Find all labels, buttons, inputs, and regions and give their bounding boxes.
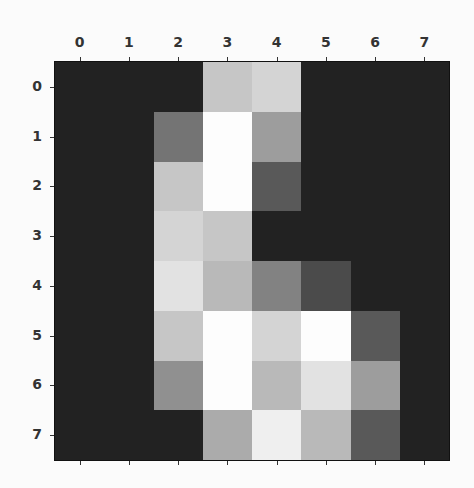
- heatmap-cell: [154, 211, 203, 261]
- heatmap-cell: [55, 311, 104, 361]
- x-tick-mark: [326, 460, 327, 465]
- heatmap-cell: [203, 112, 252, 162]
- heatmap-cell: [301, 361, 350, 411]
- heatmap-cell: [252, 410, 301, 460]
- y-tick-label: 0: [28, 78, 42, 94]
- heatmap-cell: [252, 261, 301, 311]
- heatmap-cell: [400, 162, 449, 212]
- x-tick-mark: [375, 460, 376, 465]
- heatmap-cell: [351, 311, 400, 361]
- y-tick-label: 5: [28, 327, 42, 343]
- heatmap-cell: [301, 162, 350, 212]
- heatmap-cell: [351, 361, 400, 411]
- heatmap-cell: [104, 162, 153, 212]
- heatmap-cell: [203, 62, 252, 112]
- heatmap-cell: [154, 311, 203, 361]
- heatmap-cell: [104, 112, 153, 162]
- heatmap-cell: [351, 112, 400, 162]
- heatmap-cell: [104, 261, 153, 311]
- x-tick-label: 4: [267, 34, 287, 50]
- heatmap-cell: [351, 211, 400, 261]
- heatmap-cell: [104, 211, 153, 261]
- heatmap-cell: [301, 211, 350, 261]
- y-tick-label: 7: [28, 426, 42, 442]
- x-tick-mark: [424, 460, 425, 465]
- x-tick-label: 6: [365, 34, 385, 50]
- heatmap-cell: [154, 112, 203, 162]
- heatmap-cell: [104, 311, 153, 361]
- y-tick-label: 4: [28, 277, 42, 293]
- heatmap-cell: [252, 211, 301, 261]
- heatmap-cell: [203, 211, 252, 261]
- x-tick-mark: [129, 460, 130, 465]
- heatmap-cell: [154, 162, 203, 212]
- heatmap-cell: [203, 361, 252, 411]
- heatmap-plot: [55, 62, 449, 460]
- y-tick-label: 6: [28, 376, 42, 392]
- heatmap-cell: [55, 361, 104, 411]
- heatmap-cell: [400, 311, 449, 361]
- heatmap-cell: [400, 261, 449, 311]
- heatmap-cell: [104, 62, 153, 112]
- x-tick-label: 7: [414, 34, 434, 50]
- heatmap-cell: [301, 62, 350, 112]
- x-tick-label: 5: [316, 34, 336, 50]
- y-tick-label: 1: [28, 128, 42, 144]
- heatmap-cell: [252, 311, 301, 361]
- heatmap-cell: [351, 62, 400, 112]
- heatmap-cell: [55, 261, 104, 311]
- heatmap-cell: [203, 261, 252, 311]
- y-tick-label: 3: [28, 227, 42, 243]
- heatmap-cell: [301, 112, 350, 162]
- heatmap-cell: [400, 62, 449, 112]
- x-tick-mark: [277, 460, 278, 465]
- heatmap-cell: [252, 361, 301, 411]
- heatmap-cell: [55, 112, 104, 162]
- heatmap-cell: [351, 162, 400, 212]
- heatmap-cell: [55, 162, 104, 212]
- heatmap-cell: [400, 112, 449, 162]
- y-tick-label: 2: [28, 177, 42, 193]
- heatmap-cell: [104, 410, 153, 460]
- x-tick-label: 3: [217, 34, 237, 50]
- heatmap-cell: [301, 410, 350, 460]
- heatmap-cell: [154, 261, 203, 311]
- x-tick-mark: [227, 460, 228, 465]
- x-tick-mark: [80, 460, 81, 465]
- heatmap-cell: [154, 361, 203, 411]
- heatmap-cell: [400, 211, 449, 261]
- x-tick-label: 1: [119, 34, 139, 50]
- heatmap-cell: [154, 410, 203, 460]
- heatmap-cell: [301, 311, 350, 361]
- heatmap-cell: [252, 112, 301, 162]
- heatmap-cell: [203, 162, 252, 212]
- heatmap-cell: [351, 261, 400, 311]
- heatmap-cell: [203, 410, 252, 460]
- x-tick-label: 2: [168, 34, 188, 50]
- heatmap-cell: [55, 410, 104, 460]
- heatmap-cell: [252, 62, 301, 112]
- heatmap-cell: [400, 361, 449, 411]
- heatmap-cell: [301, 261, 350, 311]
- x-tick-label: 0: [70, 34, 90, 50]
- heatmap-cell: [55, 211, 104, 261]
- heatmap-cell: [351, 410, 400, 460]
- heatmap-cell: [55, 62, 104, 112]
- x-tick-mark: [178, 460, 179, 465]
- heatmap-cell: [154, 62, 203, 112]
- heatmap-cell: [104, 361, 153, 411]
- heatmap-cell: [203, 311, 252, 361]
- heatmap-cell: [252, 162, 301, 212]
- heatmap-cell: [400, 410, 449, 460]
